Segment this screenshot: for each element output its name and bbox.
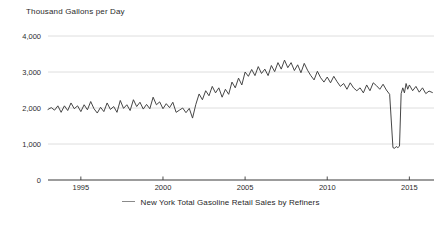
- legend-label-ny-gasoline: New York Total Gasoline Retail Sales by …: [141, 198, 320, 207]
- x-axis-tick-labels: 19952000200520102015: [73, 183, 418, 192]
- x-tick-2015: 2015: [401, 183, 418, 192]
- y-tick-2000: 2,000: [22, 104, 41, 113]
- x-axis: [48, 177, 434, 181]
- x-tick-2010: 2010: [319, 183, 336, 192]
- y-tick-4000: 4,000: [22, 32, 41, 41]
- y-tick-1000: 1,000: [22, 140, 41, 149]
- series-line-0: [48, 60, 432, 148]
- y-tick-0: 0: [37, 176, 41, 185]
- chart-legend: New York Total Gasoline Retail Sales by …: [0, 198, 441, 207]
- y-tick-3000: 3,000: [22, 68, 41, 77]
- gridlines: [48, 36, 434, 144]
- chart-plot-area: 01,0002,0003,0004,000 199520002005201020…: [0, 0, 441, 226]
- legend-line-swatch: [122, 201, 135, 202]
- y-axis-tick-labels: 01,0002,0003,0004,000: [22, 32, 41, 185]
- data-series-group: [48, 60, 432, 148]
- x-tick-2000: 2000: [155, 183, 172, 192]
- x-tick-1995: 1995: [73, 183, 90, 192]
- chart-container: Thousand Gallons per Day 01,0002,0003,00…: [0, 0, 441, 226]
- x-tick-2005: 2005: [237, 183, 254, 192]
